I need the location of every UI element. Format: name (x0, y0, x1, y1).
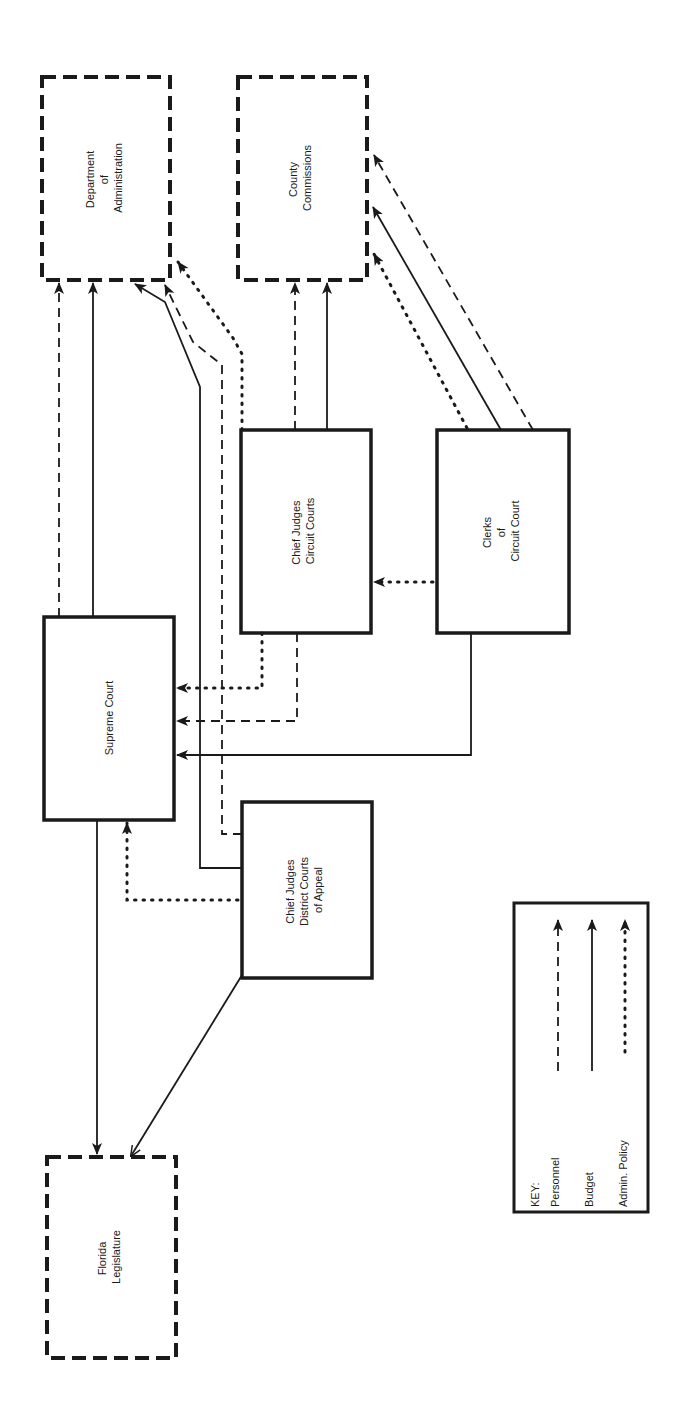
edge-ccj-dept-policy (178, 262, 242, 430)
node-county-commissions-label: County Commissions (287, 144, 313, 211)
node-dept-admin: Department of Administration (42, 77, 170, 280)
node-county-commissions: County Commissions (238, 77, 367, 280)
node-chief-judges-district: Chief Judges District Courts of Appeal (242, 802, 372, 978)
node-dept-admin-label: Department of Administration (84, 143, 124, 213)
legend: KEY: Personnel Budget Admin. Policy (514, 903, 648, 1212)
legend-budget-label: Budget (583, 1172, 595, 1207)
legend-policy-label: Admin. Policy (617, 1140, 629, 1207)
edge-ccj-sc-personnel (177, 633, 297, 721)
edge-dca-legislature-budget (131, 975, 242, 1156)
node-florida-legislature: Florida Legislature (47, 1157, 176, 1358)
node-clerks-circuit: Clerks of Circuit Court (437, 430, 569, 633)
node-chief-judges-circuit: Chief Judges Circuit Courts (241, 430, 371, 633)
legend-title: KEY: (529, 1183, 541, 1207)
edge-clerks-county-budget (373, 207, 501, 430)
node-florida-legislature-label: Florida Legislature (96, 1230, 122, 1284)
legend-personnel-label: Personnel (549, 1157, 561, 1207)
edge-clerks-county-policy (374, 254, 467, 428)
edge-clerks-county-personnel (374, 155, 533, 430)
node-supreme-court-label: Supreme Court (103, 681, 115, 756)
node-supreme-court: Supreme Court (44, 617, 174, 820)
edge-dca-dept-personnel (165, 285, 242, 834)
edge-ccj-sc-policy (177, 633, 262, 688)
court-relationship-diagram: Department of Administration County Comm… (0, 0, 689, 1417)
